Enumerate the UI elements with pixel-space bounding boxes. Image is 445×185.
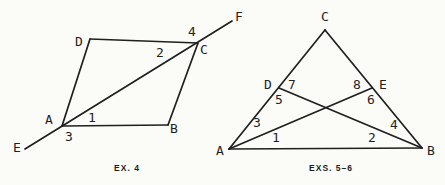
ex4-vertex-label-E: E	[13, 140, 21, 155]
ex4-angle-label-3: 3	[65, 129, 73, 144]
ex4-vertex-label-D: D	[75, 34, 83, 49]
exs56-angle-label-2: 2	[368, 130, 376, 145]
exs56-angle-label-7: 7	[288, 77, 296, 92]
caption-ex4: EX. 4	[114, 163, 140, 173]
exs56-angle-label-8: 8	[353, 77, 361, 92]
exs56-vertex-label-B: B	[427, 143, 435, 158]
diagram-canvas: ABCDEF1234ABCDE12345678	[0, 0, 445, 185]
exs56-vertex-label-A: A	[216, 143, 224, 158]
ex4-vertex-label-B: B	[170, 121, 178, 136]
caption-exs56: EXS. 5–6	[309, 163, 353, 173]
textbook-geometry-figures: ABCDEF1234ABCDE12345678 EX. 4 EXS. 5–6	[0, 0, 445, 185]
ex4-segment-D-C	[90, 39, 198, 43]
ex4-segment-C-B	[168, 43, 198, 125]
exs56-angle-label-1: 1	[272, 130, 280, 145]
exs56-angle-label-6: 6	[367, 92, 375, 107]
ex4-angle-label-2: 2	[156, 45, 164, 60]
exs56-vertex-label-D: D	[264, 77, 272, 92]
ex4-segment-B-A	[62, 125, 168, 126]
exs56-angle-label-5: 5	[275, 92, 283, 107]
exs56-vertex-label-E: E	[379, 77, 387, 92]
ex4-angle-label-4: 4	[188, 24, 196, 39]
ex4-vertex-label-F: F	[235, 9, 243, 24]
ex4-vertex-label-C: C	[200, 42, 208, 57]
exs56-segment-B-A	[229, 148, 422, 149]
ex4-angle-label-1: 1	[88, 110, 96, 125]
ex4-segment-A-D	[62, 39, 90, 126]
ex4-vertex-label-A: A	[45, 112, 53, 127]
exs56-angle-label-3: 3	[253, 115, 261, 130]
exs56-angle-label-4: 4	[390, 117, 398, 132]
exs56-vertex-label-C: C	[321, 9, 329, 24]
